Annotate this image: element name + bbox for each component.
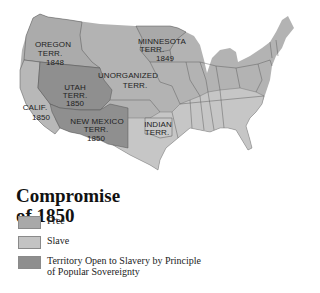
minnesota-label-2: TERR. [140,45,165,54]
unorganized-label-1: UNORGANIZED [98,71,158,80]
unorganized-label-2: TERR. [123,81,148,90]
california-label-2: 1850 [32,113,51,122]
slave-swatch-icon [18,236,41,249]
legend-label-slave: Slave [47,235,69,246]
new-mexico-label-3: 1850 [87,134,106,143]
new-mexico-label-2: TERR. [84,125,109,134]
oregon-label-1: OREGON [35,40,71,49]
popular-sovereignty-swatch-icon [18,256,41,269]
legend: Free Slave Territory Open to Slavery by … [18,215,318,275]
legend-item-slave: Slave [18,235,318,255]
legend-item-popular-sovereignty: Territory Open to Slavery by Principle o… [18,255,318,275]
legend-label-popular-sovereignty: Territory Open to Slavery by Principle o… [47,255,207,277]
us-map-1850: OREGON TERR. 1848 MINNESOTA TERR. 1849 U… [0,0,320,200]
oregon-label-2: TERR. [38,49,63,58]
map-title-line-1: Compromise [16,186,120,206]
legend-item-free: Free [18,215,318,235]
california-label-1: CALIF. [23,103,48,112]
utah-label-3: 1850 [66,99,85,108]
oregon-label-3: 1848 [46,58,65,67]
free-swatch-icon [18,216,41,229]
indian-label-2: TERR. [145,128,170,137]
legend-label-free: Free [47,215,65,226]
minnesota-label-3: 1849 [156,54,175,63]
